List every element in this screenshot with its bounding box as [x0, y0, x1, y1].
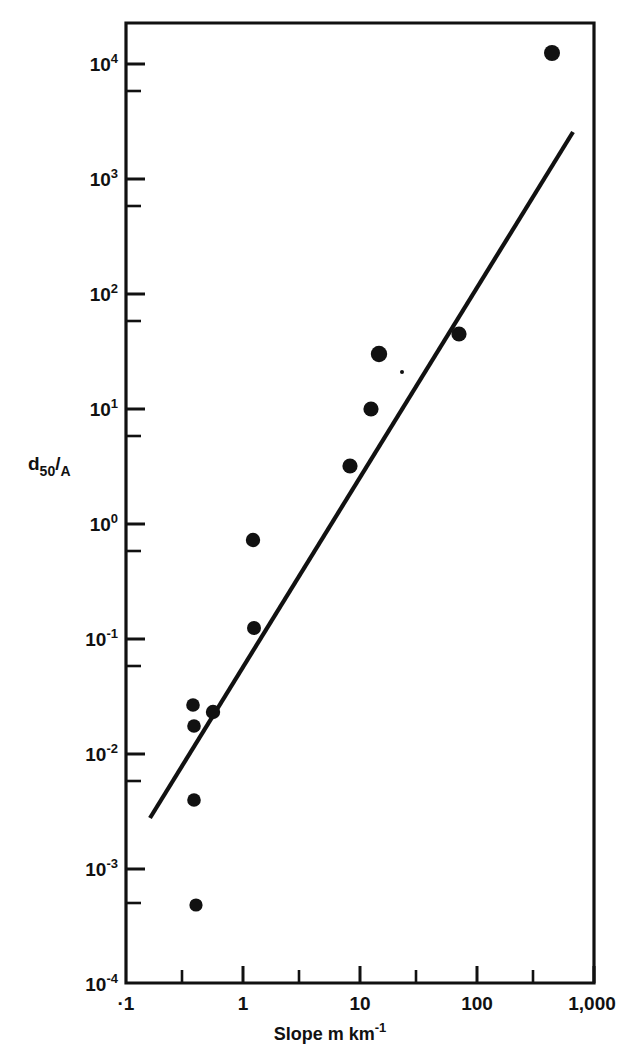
data-point: [186, 698, 200, 712]
x-axis-title-group: Slope m km-1: [274, 1020, 387, 1044]
y-axis-title: d50/A: [28, 453, 71, 479]
x-tick-labels: ·1 1 10 100 1,000: [118, 993, 616, 1014]
x-axis-ticks: [182, 966, 594, 983]
x-tick-label-100: 100: [461, 993, 493, 1014]
x-tick-label-10: 10: [349, 993, 370, 1014]
x-tick-label-1: 1: [238, 993, 249, 1014]
log-log-scatter-chart: 104 103 102 101 100 10-1 10-2 10-3 10-4 …: [0, 0, 644, 1052]
x-tick-label-0p1: ·1: [118, 993, 135, 1014]
y-tick-labels: 104 103 102 101 100 10-1 10-2 10-3 10-4: [85, 51, 118, 995]
data-point: [189, 898, 202, 911]
y-tick-label-1em1: 10-1: [85, 626, 118, 650]
data-point: [247, 621, 261, 635]
data-point: [206, 705, 220, 719]
figure-container: 104 103 102 101 100 10-1 10-2 10-3 10-4 …: [0, 0, 644, 1052]
data-point: [342, 458, 357, 473]
y-tick-label-1e4: 104: [90, 51, 119, 75]
data-point: [371, 346, 387, 362]
axes-frame-rect: [126, 23, 594, 983]
print-speck-mark: [400, 370, 404, 374]
x-axis-title: Slope m km-1: [274, 1020, 387, 1044]
y-tick-label-1em3: 10-3: [85, 856, 118, 880]
data-point: [451, 326, 466, 341]
data-point: [544, 45, 560, 61]
y-tick-label-1e0: 100: [90, 511, 118, 535]
data-point: [187, 793, 201, 807]
y-tick-label-1e1: 101: [90, 396, 118, 420]
y-axis-ticks: [126, 64, 145, 903]
y-tick-label-1em2: 10-2: [85, 741, 118, 765]
y-tick-label-1em4: 10-4: [85, 971, 118, 995]
y-axis-title-group: d50/A: [28, 453, 71, 479]
y-tick-label-1e2: 102: [90, 281, 118, 305]
plot-frame: [126, 23, 594, 983]
data-point: [246, 533, 260, 547]
data-points-group: [186, 45, 560, 912]
y-tick-label-1e3: 103: [90, 166, 118, 190]
data-point: [187, 719, 201, 733]
x-tick-label-1000: 1,000: [568, 993, 616, 1014]
data-point: [363, 401, 378, 416]
